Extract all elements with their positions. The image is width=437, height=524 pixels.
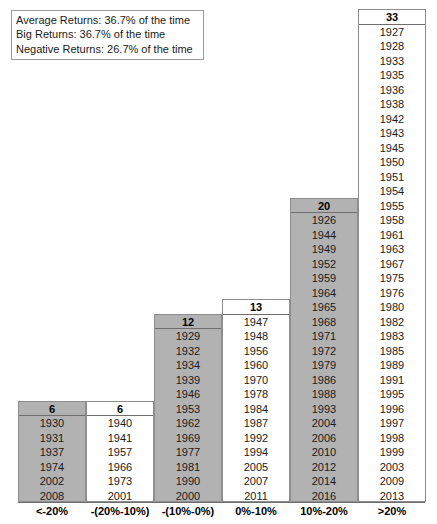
year-cell: 1985 — [359, 344, 425, 359]
legend-line-big: Big Returns: 36.7% of the time — [16, 27, 199, 41]
year-cell: 1927 — [359, 25, 425, 40]
year-cell: 2008 — [19, 489, 85, 504]
year-cell: 2013 — [359, 489, 425, 504]
year-cell: 1941 — [87, 431, 153, 446]
year-cell: 1979 — [291, 358, 357, 373]
year-cell: 1953 — [155, 402, 221, 417]
year-cell: 2016 — [291, 489, 357, 504]
histogram-column-2: 6194019411957196619732001 — [86, 401, 154, 503]
year-cell: 2012 — [291, 460, 357, 475]
year-cell: 1986 — [291, 373, 357, 388]
year-cell: 1944 — [291, 228, 357, 243]
year-cell: 1935 — [359, 68, 425, 83]
histogram-column-4: 1319471948195619601970197819841987199219… — [222, 299, 290, 502]
year-cell: 1989 — [359, 358, 425, 373]
year-cell: 1952 — [291, 257, 357, 272]
year-cell: 2011 — [223, 489, 289, 504]
year-cell: 1957 — [87, 445, 153, 460]
year-cell: 1966 — [87, 460, 153, 475]
year-cell: 1973 — [87, 474, 153, 489]
year-cell: 1996 — [359, 402, 425, 417]
axis-label-5: 10%-20% — [290, 503, 358, 519]
column-year-list: 1926194419491952195919641965196819711972… — [291, 213, 357, 503]
year-cell: 1971 — [291, 329, 357, 344]
year-cell: 1980 — [359, 300, 425, 315]
returns-histogram: Average Returns: 36.7% of the time Big R… — [0, 0, 437, 524]
year-cell: 1959 — [291, 271, 357, 286]
year-cell: 1982 — [359, 315, 425, 330]
year-cell: 1937 — [19, 445, 85, 460]
year-cell: 1942 — [359, 112, 425, 127]
year-cell: 1994 — [223, 445, 289, 460]
year-cell: 2010 — [291, 445, 357, 460]
column-count-label: 12 — [155, 315, 221, 330]
year-cell: 1977 — [155, 445, 221, 460]
legend-line-negative: Negative Returns: 26.7% of the time — [16, 42, 199, 56]
axis-label-1: <-20% — [18, 503, 86, 519]
column-year-list: 1929193219341939194619531962196919771981… — [155, 329, 221, 503]
year-cell: 1992 — [223, 431, 289, 446]
axis-label-6: >20% — [358, 503, 426, 519]
year-cell: 1936 — [359, 83, 425, 98]
year-cell: 1984 — [223, 402, 289, 417]
column-count-label: 6 — [19, 402, 85, 417]
year-cell: 1967 — [359, 257, 425, 272]
year-cell: 1954 — [359, 184, 425, 199]
year-cell: 1991 — [359, 373, 425, 388]
year-cell: 1995 — [359, 387, 425, 402]
axis-label-4: 0%-10% — [222, 503, 290, 519]
year-cell: 1951 — [359, 170, 425, 185]
year-cell: 1943 — [359, 126, 425, 141]
histogram-column-5: 2019261944194919521959196419651968197119… — [290, 198, 358, 503]
year-cell: 1934 — [155, 358, 221, 373]
year-cell: 1978 — [223, 387, 289, 402]
axis-label-3: -(10%-0%) — [154, 503, 222, 519]
year-cell: 1964 — [291, 286, 357, 301]
axis-label-2: -(20%-10%) — [86, 503, 154, 519]
year-cell: 1945 — [359, 141, 425, 156]
column-year-list: 194019411957196619732001 — [87, 416, 153, 503]
year-cell: 1940 — [87, 416, 153, 431]
year-cell: 1930 — [19, 416, 85, 431]
year-cell: 1939 — [155, 373, 221, 388]
column-year-list: 193019311937197420022008 — [19, 416, 85, 503]
year-cell: 1955 — [359, 199, 425, 214]
column-count-label: 33 — [359, 10, 425, 25]
year-cell: 1983 — [359, 329, 425, 344]
year-cell: 1933 — [359, 54, 425, 69]
year-cell: 1947 — [223, 315, 289, 330]
year-cell: 1988 — [291, 387, 357, 402]
year-cell: 1962 — [155, 416, 221, 431]
year-cell: 1969 — [155, 431, 221, 446]
column-count-label: 13 — [223, 300, 289, 315]
year-cell: 1972 — [291, 344, 357, 359]
year-cell: 1990 — [155, 474, 221, 489]
year-cell: 2006 — [291, 431, 357, 446]
year-cell: 2005 — [223, 460, 289, 475]
year-cell: 1993 — [291, 402, 357, 417]
legend-line-average: Average Returns: 36.7% of the time — [16, 13, 199, 27]
year-cell: 1958 — [359, 213, 425, 228]
year-cell: 1968 — [291, 315, 357, 330]
year-cell: 1938 — [359, 97, 425, 112]
year-cell: 1987 — [223, 416, 289, 431]
year-cell: 1928 — [359, 39, 425, 54]
year-cell: 2000 — [155, 489, 221, 504]
year-cell: 1981 — [155, 460, 221, 475]
year-cell: 2007 — [223, 474, 289, 489]
year-cell: 1961 — [359, 228, 425, 243]
histogram-column-3: 1219291932193419391946195319621969197719… — [154, 314, 222, 503]
year-cell: 2002 — [19, 474, 85, 489]
year-cell: 2001 — [87, 489, 153, 504]
year-cell: 1948 — [223, 329, 289, 344]
year-cell: 1949 — [291, 242, 357, 257]
year-cell: 1926 — [291, 213, 357, 228]
year-cell: 1975 — [359, 271, 425, 286]
year-cell: 1999 — [359, 445, 425, 460]
year-cell: 2004 — [291, 416, 357, 431]
year-cell: 1946 — [155, 387, 221, 402]
year-cell: 2003 — [359, 460, 425, 475]
year-cell: 1929 — [155, 329, 221, 344]
year-cell: 2014 — [291, 474, 357, 489]
year-cell: 1963 — [359, 242, 425, 257]
